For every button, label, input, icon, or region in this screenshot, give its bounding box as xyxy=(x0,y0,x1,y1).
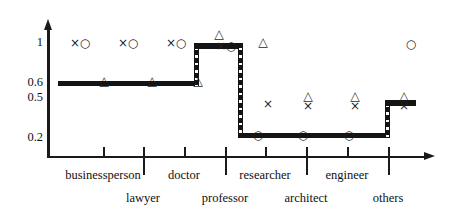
marker-triangle-businessperson: △ xyxy=(99,75,109,87)
marker-triangle-researcher: △ xyxy=(258,36,268,48)
x-tick-researcher xyxy=(265,147,267,156)
marker-cross-businessperson: × xyxy=(70,37,80,49)
marker-circle-businessperson: ○ xyxy=(80,37,90,49)
x-axis-label-doctor: doctor xyxy=(168,169,200,182)
marker-triangle-professor: △ xyxy=(214,28,224,40)
marker-circle-others: ○ xyxy=(406,38,416,50)
marker-circle-professor: ○ xyxy=(226,40,236,52)
marker-cross-professor: × xyxy=(216,40,226,52)
marker-cross-doctor: × xyxy=(166,37,176,49)
x-tick-professor xyxy=(225,147,227,175)
marker-cross-architect: × xyxy=(303,100,313,112)
step-segment-0.6 xyxy=(58,81,196,87)
x-axis-label-researcher: researcher xyxy=(239,169,290,182)
x-axis-label-engineer: engineer xyxy=(325,169,368,182)
marker-cross-others: × xyxy=(399,100,409,112)
x-tick-doctor xyxy=(184,147,186,156)
marker-cross-researcher: × xyxy=(263,98,273,110)
y-axis-arrow-icon xyxy=(44,19,52,30)
x-tick-businessperson xyxy=(103,147,105,156)
y-axis-line xyxy=(47,28,50,157)
step-riser-0.2-to-0.5 xyxy=(385,100,391,138)
marker-circle-doctor: ○ xyxy=(176,37,186,49)
marker-triangle-lawyer: △ xyxy=(147,75,157,87)
y-tick-label-0.2: 0.2 xyxy=(9,131,43,144)
y-tick-label-0.5: 0.5 xyxy=(9,91,43,104)
marker-circle-researcher: ○ xyxy=(253,129,263,141)
x-tick-engineer xyxy=(347,147,349,156)
x-axis-label-businessperson: businessperson xyxy=(65,169,141,182)
x-tick-others xyxy=(388,147,390,175)
step-riser-1-to-0.2 xyxy=(238,43,244,138)
x-axis-arrow-icon xyxy=(424,152,435,160)
marker-circle-architect: ○ xyxy=(298,129,308,141)
x-axis-label-others: others xyxy=(373,192,404,205)
marker-circle-engineer: ○ xyxy=(344,129,354,141)
x-axis-label-lawyer: lawyer xyxy=(126,192,160,205)
marker-circle-lawyer: ○ xyxy=(128,37,138,49)
marker-cross-lawyer: × xyxy=(118,37,128,49)
x-axis-label-architect: architect xyxy=(284,192,327,205)
x-tick-architect xyxy=(306,147,308,175)
marker-triangle-doctor: △ xyxy=(193,75,203,87)
y-tick-label-1: 1 xyxy=(9,36,43,49)
x-tick-lawyer xyxy=(143,147,145,175)
x-axis-label-professor: professor xyxy=(202,192,249,205)
y-tick-label-0.6: 0.6 xyxy=(9,76,43,89)
step-chart: 1 0.6 0.5 0.2 businessperson doctor rese… xyxy=(0,0,450,222)
marker-cross-engineer: × xyxy=(350,100,360,112)
